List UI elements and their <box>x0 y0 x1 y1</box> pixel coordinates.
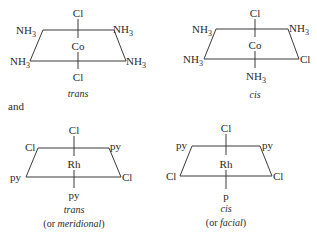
ligand-bottom-right: NH3 <box>126 55 146 70</box>
ligand-bottom-left: py <box>10 171 22 183</box>
metal-center: Rh <box>220 158 233 170</box>
ligand-top-left: NH3 <box>16 24 36 39</box>
ligand-top-right: NH3 <box>289 22 309 37</box>
ligand-top-right: py <box>110 140 122 152</box>
ligand-top: Cl <box>250 7 260 19</box>
isomer-subcaption: (or meridional) <box>43 218 104 230</box>
ligand-bottom-right: Cl <box>122 171 132 183</box>
ligand-bottom: py <box>69 189 81 201</box>
metal-center: Co <box>72 40 85 52</box>
isomer-subcaption: (or facial) <box>206 217 246 229</box>
metal-center: Co <box>249 39 262 51</box>
ligand-bottom: NH3 <box>246 70 266 85</box>
isomer-caption: trans <box>68 88 89 99</box>
complex-rh-cis: Cl Rh p py py Cl Cl cis (or facial) <box>166 122 283 229</box>
ligand-top: Cl <box>73 7 83 19</box>
octahedral-isomers-diagram: Cl Co Cl NH3 NH3 NH3 NH3 trans Cl Co NH3… <box>0 0 317 234</box>
connector-text: and <box>8 100 24 112</box>
ligand-bottom: Cl <box>73 71 83 83</box>
ligand-bottom-left: Cl <box>166 170 176 182</box>
ligand-top-right: py <box>262 139 274 151</box>
ligand-bottom: p <box>223 190 229 202</box>
metal-center: Rh <box>68 158 81 170</box>
ligand-bottom-left: NH3 <box>183 53 203 68</box>
ligand-bottom-left: NH3 <box>10 55 30 70</box>
complex-rh-trans: Cl Rh py Cl py py Cl trans (or meridiona… <box>10 124 132 230</box>
ligand-top: Cl <box>69 124 79 136</box>
ligand-top-left: py <box>176 139 188 151</box>
ligand-top: Cl <box>221 122 231 134</box>
ligand-top-left: Cl <box>25 141 35 153</box>
isomer-caption: cis <box>220 203 231 214</box>
complex-co-trans: Cl Co Cl NH3 NH3 NH3 NH3 trans <box>10 7 146 99</box>
ligand-bottom-right: Cl <box>273 170 283 182</box>
isomer-caption: trans <box>64 204 85 215</box>
ligand-bottom-right: Cl <box>300 53 310 65</box>
complex-co-cis: Cl Co NH3 NH3 NH3 NH3 Cl cis <box>183 7 310 100</box>
ligand-top-left: NH3 <box>192 23 212 38</box>
isomer-caption: cis <box>249 89 260 100</box>
